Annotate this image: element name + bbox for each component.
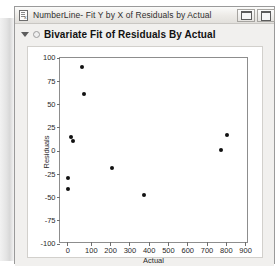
x-tick-label: 0	[66, 247, 70, 255]
y-tick-mark	[57, 220, 60, 221]
x-tick: 600	[182, 242, 195, 255]
y-tick-mark	[57, 58, 60, 59]
y-tick-label: 100	[43, 54, 56, 62]
y-tick-label: 25	[47, 124, 55, 132]
x-tick: 500	[162, 242, 175, 255]
x-axis-title: Actual	[59, 256, 248, 265]
x-tick-label: 400	[143, 247, 156, 255]
x-tick-label: 800	[220, 247, 233, 255]
data-point[interactable]	[219, 148, 223, 152]
x-tick-label: 200	[104, 247, 117, 255]
report-bullet-icon[interactable]	[33, 31, 40, 38]
x-tick: 100	[85, 242, 98, 255]
y-tick-mark	[57, 174, 60, 175]
x-tick-label: 900	[239, 247, 252, 255]
data-point[interactable]	[71, 139, 75, 143]
y-tick-label: -25	[45, 170, 56, 178]
report-content: Bivariate Fit of Residuals By Actual Res…	[15, 26, 274, 266]
x-tick: 200	[104, 242, 117, 255]
y-tick-label: 50	[47, 100, 55, 108]
data-point[interactable]	[66, 187, 70, 191]
window-title: NumberLine- Fit Y by X of Residuals by A…	[33, 10, 212, 20]
x-tick-label: 500	[162, 247, 175, 255]
scatter-plot-panel: Residuals 1007550250-25-50-75-100 010020…	[27, 46, 263, 258]
minimize-button[interactable]	[237, 9, 255, 22]
y-tick-mark	[57, 104, 60, 105]
y-tick-mark	[57, 81, 60, 82]
window-controls	[237, 9, 275, 22]
window-title-bar[interactable]: x NumberLine- Fit Y by X of Residuals by…	[15, 7, 274, 24]
x-tick: 800	[220, 242, 233, 255]
y-tick-mark	[57, 127, 60, 128]
y-tick-label: -100	[40, 240, 55, 248]
maximize-button[interactable]	[257, 9, 275, 22]
y-tick-label: 0	[51, 147, 55, 155]
y-tick-label: -75	[45, 217, 56, 225]
data-point[interactable]	[142, 193, 146, 197]
x-tick: 900	[239, 242, 252, 255]
y-tick-label: 75	[47, 77, 55, 85]
data-point[interactable]	[82, 92, 86, 96]
data-point[interactable]	[66, 176, 70, 180]
data-point[interactable]	[110, 166, 114, 170]
data-point[interactable]	[225, 133, 229, 137]
x-tick: 0	[66, 242, 70, 255]
plot-frame[interactable]: 1007550250-25-50-75-100 0100200300400500…	[59, 57, 248, 243]
jmp-report-icon: x	[18, 10, 29, 21]
report-header: Bivariate Fit of Residuals By Actual	[15, 26, 274, 42]
x-tick-label: 600	[182, 247, 195, 255]
y-tick-mark	[57, 151, 60, 152]
maximize-icon	[261, 11, 271, 21]
data-point[interactable]	[80, 65, 84, 69]
desktop-left-gutter	[0, 18, 14, 261]
y-tick-mark	[57, 244, 60, 245]
page-title: Bivariate Fit of Residuals By Actual	[44, 29, 216, 40]
x-tick-label: 700	[201, 247, 214, 255]
y-axis-title: Residuals	[42, 136, 51, 169]
x-tick: 300	[124, 242, 137, 255]
x-tick: 400	[143, 242, 156, 255]
x-tick-label: 100	[85, 247, 98, 255]
x-tick: 700	[201, 242, 214, 255]
disclosure-triangle-icon[interactable]	[21, 32, 29, 37]
x-tick-label: 300	[124, 247, 137, 255]
report-window: x NumberLine- Fit Y by X of Residuals by…	[14, 6, 275, 264]
minimize-icon	[241, 11, 252, 20]
y-tick-label: -50	[45, 193, 56, 201]
y-tick-mark	[57, 197, 60, 198]
